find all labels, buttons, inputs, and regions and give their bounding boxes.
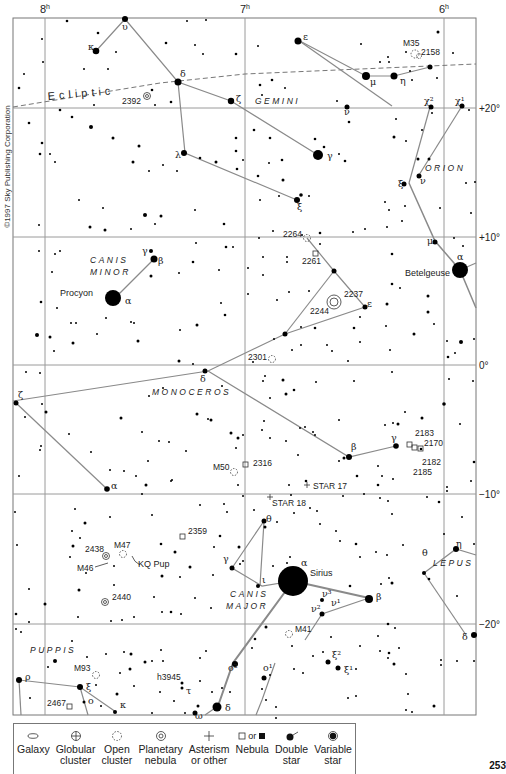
- nebula-2237: [327, 295, 341, 309]
- star-delta-lep: [471, 632, 477, 638]
- legend: Galaxy Globular cluster Open cluster Pla…: [13, 723, 356, 774]
- constellation-label: LEPUS: [433, 558, 473, 568]
- star-name-label: Sirius: [310, 568, 333, 578]
- object-label: M35: [403, 38, 420, 48]
- object-label: M46: [77, 563, 94, 573]
- greek-label: ι: [262, 574, 266, 585]
- bright-nebula-icon: [238, 732, 246, 740]
- open-cluster-m50: [231, 469, 238, 476]
- legend-double-star: Double star: [275, 728, 308, 766]
- legend-galaxy: Galaxy: [17, 728, 50, 755]
- copyright-text: ©1997 Sky Publishing Corporation: [3, 2, 12, 332]
- monoceros-figure-3: [208, 371, 396, 457]
- greek-label: μ: [370, 76, 376, 87]
- puppis-figure-2: [19, 680, 21, 715]
- star-betelgeuse: [452, 262, 468, 278]
- star-xi-pup: [77, 684, 83, 690]
- greek-label: α: [125, 295, 132, 306]
- greek-label: ν¹: [331, 597, 341, 608]
- legend-label: Galaxy: [17, 744, 50, 755]
- dec-label: −10°: [479, 489, 500, 500]
- open-cluster-m93: [93, 672, 100, 679]
- greek-label: γ: [391, 432, 397, 443]
- greek-label: κ: [120, 699, 126, 710]
- object-label: 2301: [248, 352, 267, 362]
- object-label: STAR 18: [272, 498, 306, 508]
- m46-pointer: [95, 563, 108, 567]
- object-label: 2264: [283, 229, 302, 239]
- legend-label: Nebula: [236, 744, 269, 755]
- ra-label: 7h: [240, 3, 250, 15]
- greek-label: ξ: [297, 201, 302, 212]
- star-chart: 8h7h6h+20°+10°0°−10°−20°EclipticGEMINIOR…: [0, 0, 506, 774]
- open-cluster-m41: [286, 631, 293, 638]
- star-xi1-cma: [336, 666, 341, 671]
- greek-label: β: [351, 441, 357, 452]
- star-xi2-cma: [326, 660, 331, 665]
- greek-label: ξ²: [332, 649, 341, 660]
- greek-label: θ: [422, 547, 428, 558]
- variable-star-icon: [326, 729, 340, 743]
- galaxy-icon: [26, 731, 40, 741]
- greek-label: γ: [142, 245, 148, 256]
- greek-label: ρ: [25, 671, 31, 682]
- greek-label: μ: [427, 235, 433, 246]
- greek-label: ε: [367, 298, 372, 309]
- constellation-label: ORION: [425, 163, 465, 173]
- greek-label: α: [301, 557, 308, 568]
- star-omicron1-cma: [262, 676, 267, 681]
- greek-label: ε: [303, 31, 308, 42]
- copyright-notice: ©1997 Sky Publishing Corporation: [2, 2, 12, 332]
- star-name-label: Procyon: [60, 288, 93, 298]
- ecliptic-label: Ecliptic: [47, 84, 115, 102]
- star-gamma-cma: [230, 566, 235, 571]
- greek-label: δ: [225, 702, 231, 713]
- object-label: STAR 17: [313, 481, 347, 491]
- star-rho-pup: [16, 677, 22, 683]
- dec-label: +20°: [479, 103, 500, 114]
- object-label: 2237: [344, 289, 363, 299]
- greek-label: γ: [327, 150, 333, 161]
- star-delta-gem: [175, 79, 182, 86]
- object-label: 2438: [85, 544, 104, 554]
- star-procyon: [105, 290, 121, 306]
- object-label: M47: [114, 540, 131, 550]
- star-gamma-mon: [393, 443, 399, 449]
- nebula-2359: [180, 534, 185, 539]
- planetary-nebula-icon: [154, 729, 168, 743]
- greek-label: η: [400, 75, 406, 86]
- double-star-icon: [284, 729, 300, 743]
- object-label: M50: [213, 462, 230, 472]
- open-cluster-m47: [120, 551, 127, 558]
- orion-figure-3: [409, 183, 476, 308]
- object-label: 2467: [47, 698, 66, 708]
- ra-label: 8h: [40, 3, 50, 15]
- greek-label: η: [456, 538, 462, 549]
- legend-asterism: Asterism or other: [189, 728, 230, 766]
- star-delta-cma: [213, 703, 222, 712]
- object-label: 2261: [302, 256, 321, 266]
- legend-label-2: cluster: [101, 755, 132, 766]
- greek-label: ω: [195, 710, 203, 721]
- constellation-label: PUPPIS: [30, 645, 76, 655]
- greek-label: ο²: [228, 662, 238, 673]
- greek-label: ο: [88, 695, 94, 706]
- star-zeta-mon: [14, 401, 19, 406]
- greek-label: υ: [122, 21, 128, 32]
- greek-label: θ: [266, 513, 272, 524]
- object-label: 2183: [415, 428, 434, 438]
- greek-label: α: [111, 480, 118, 491]
- legend-label-2: cluster: [60, 755, 91, 766]
- greek-label: ζ: [18, 389, 23, 400]
- greek-label: δ: [462, 631, 468, 642]
- planetary-nebula-2440: [102, 599, 109, 606]
- star-kappa-pup: [113, 710, 117, 714]
- dec-label: 0°: [479, 360, 489, 371]
- legend-nebula: or Nebula: [236, 728, 269, 755]
- open-cluster-icon: [110, 729, 124, 743]
- star-gamma-cmi: [149, 249, 153, 253]
- constellation-label: CANIS: [230, 589, 268, 599]
- star: [428, 65, 433, 70]
- star-theta-lep: [422, 571, 426, 575]
- legend-planetary-nebula: Planetary nebula: [138, 728, 182, 766]
